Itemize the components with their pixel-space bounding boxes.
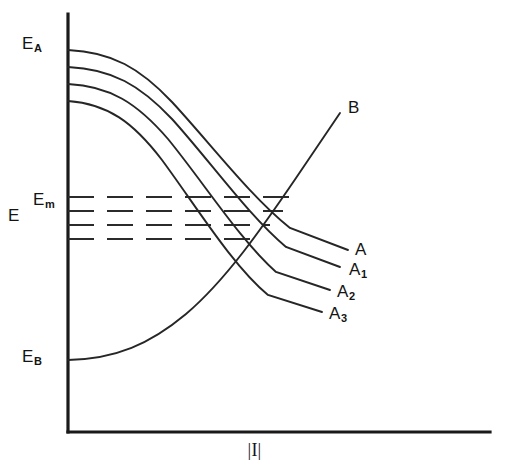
label-A2-sub: 2 xyxy=(349,290,355,302)
label-A2-base: A xyxy=(337,282,349,301)
label-Em-base: E xyxy=(33,190,45,209)
label-curve-A2: A2 xyxy=(337,283,355,300)
plot-area xyxy=(0,0,509,472)
curve-A3 xyxy=(68,101,322,312)
label-A3-sub: 3 xyxy=(341,312,347,324)
label-EB-sub: B xyxy=(34,355,42,367)
label-A1-sub: 1 xyxy=(361,268,367,280)
label-energy-EB: EB xyxy=(22,348,42,365)
label-curve-A: A xyxy=(355,241,367,258)
label-EB-base: E xyxy=(22,347,34,366)
label-EA-base: E xyxy=(22,34,34,53)
label-A3-base: A xyxy=(329,304,341,323)
label-x-axis: |I| xyxy=(0,441,509,459)
label-energy-EA: EA xyxy=(22,35,42,52)
label-A-base: A xyxy=(355,240,367,259)
label-A1-base: A xyxy=(349,260,361,279)
curve-A xyxy=(68,50,348,250)
energy-level-diagram: EA Em E EB B A A1 A2 A3 |I| xyxy=(0,0,509,472)
label-Em-sub: m xyxy=(45,198,55,210)
label-curve-A3: A3 xyxy=(329,305,347,322)
label-EA-sub: A xyxy=(34,42,42,54)
label-curve-A1: A1 xyxy=(349,261,367,278)
curve-B xyxy=(68,113,340,360)
label-curve-B: B xyxy=(348,99,360,116)
label-energy-Em: Em xyxy=(33,191,55,208)
label-y-axis: E xyxy=(8,207,20,224)
curve-A1 xyxy=(68,67,340,267)
label-B-base: B xyxy=(348,98,360,117)
